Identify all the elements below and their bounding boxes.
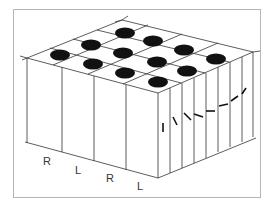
orientation-ticks (163, 88, 246, 132)
label-r-1: R (43, 155, 51, 167)
label-l-2: L (137, 180, 143, 192)
column-block-diagram (0, 0, 280, 206)
label-l-1: L (75, 164, 81, 176)
label-r-2: R (106, 172, 114, 184)
